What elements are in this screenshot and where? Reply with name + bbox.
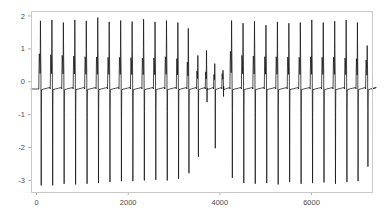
y-tick-label: -3 bbox=[18, 176, 25, 185]
x-tick-label: 4000 bbox=[211, 198, 228, 207]
x-tick-label: 0 bbox=[34, 198, 38, 207]
y-tick-label: 2 bbox=[21, 12, 25, 21]
y-tick-label: -1 bbox=[18, 110, 25, 119]
chart-background bbox=[0, 0, 386, 213]
x-tick-label: 2000 bbox=[120, 198, 137, 207]
time-series-chart: 210-1-2-3 0200040006000 bbox=[0, 0, 386, 213]
y-tick-label: 1 bbox=[21, 44, 25, 53]
y-tick-label: -2 bbox=[18, 143, 25, 152]
chart-figure: 210-1-2-3 0200040006000 bbox=[0, 0, 386, 213]
x-tick-label: 6000 bbox=[303, 198, 320, 207]
y-tick-label: 0 bbox=[21, 77, 25, 86]
